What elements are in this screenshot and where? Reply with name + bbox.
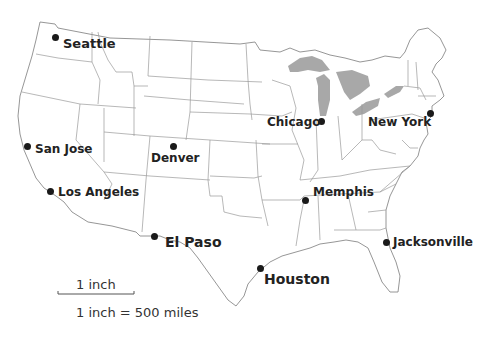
city-label-jacksonville: Jacksonville bbox=[393, 236, 473, 248]
city-dot-denver bbox=[170, 143, 177, 150]
city-label-seattle: Seattle bbox=[63, 37, 116, 50]
city-label-los-angeles: Los Angeles bbox=[58, 186, 139, 198]
city-dot-jacksonville bbox=[383, 239, 390, 246]
city-dot-seattle bbox=[52, 34, 59, 41]
us-map: Seattle San Jose Los Angeles Denver El P… bbox=[0, 0, 485, 337]
scale-bar-label: 1 inch bbox=[76, 278, 116, 291]
city-dot-memphis bbox=[302, 197, 309, 204]
city-label-san-jose: San Jose bbox=[35, 143, 92, 155]
city-dot-houston bbox=[257, 265, 264, 272]
city-label-chicago: Chicago bbox=[267, 116, 321, 128]
city-dot-san-jose bbox=[24, 143, 31, 150]
city-label-memphis: Memphis bbox=[313, 186, 374, 198]
city-label-denver: Denver bbox=[151, 152, 200, 164]
city-dot-el-paso bbox=[151, 233, 158, 240]
city-label-houston: Houston bbox=[264, 272, 330, 286]
city-dot-los-angeles bbox=[47, 188, 54, 195]
us-outline bbox=[18, 22, 446, 306]
scale-ratio-text: 1 inch = 500 miles bbox=[76, 306, 198, 319]
city-label-el-paso: El Paso bbox=[165, 235, 222, 249]
city-label-new-york: New York bbox=[368, 116, 431, 128]
